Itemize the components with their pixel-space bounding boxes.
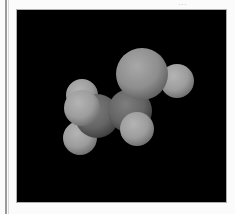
hydrogen-atom-front-left [64, 90, 100, 126]
hydrogen-atom-front-right [120, 112, 154, 146]
window-left-border-inner [8, 0, 9, 214]
molecule-viewer[interactable] [16, 9, 227, 203]
clipped-header-text: … [178, 0, 192, 5]
ethanol-molecule [63, 48, 194, 155]
window-left-border [5, 0, 7, 214]
molecule-canvas[interactable] [16, 9, 227, 203]
oxygen-atom [116, 48, 168, 100]
